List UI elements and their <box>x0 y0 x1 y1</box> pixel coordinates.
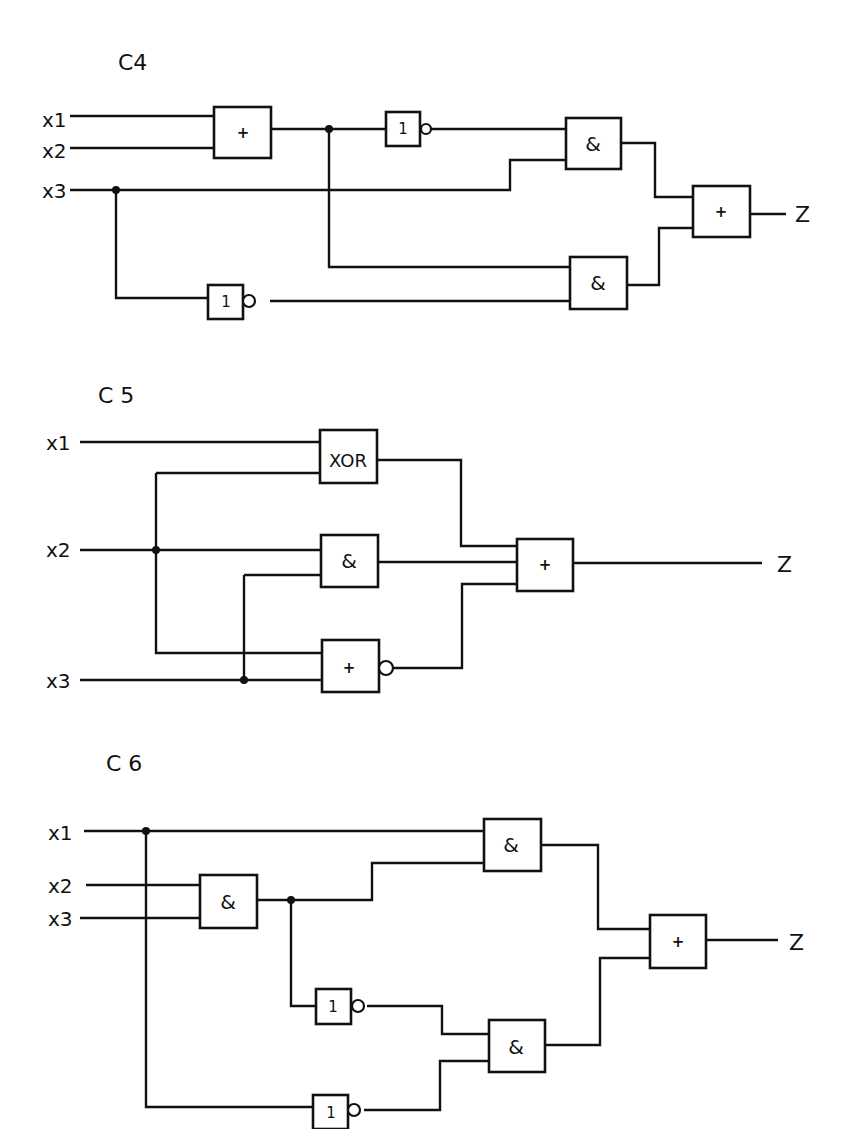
input-label-x1: x1 <box>48 821 73 845</box>
circuit-c4: C4 x1 x2 x3 + 1 & & 1 + Z <box>42 50 810 319</box>
output-label-z: Z <box>777 552 792 577</box>
not-gate-symbol: 1 <box>326 1104 336 1122</box>
not-gate-symbol: 1 <box>328 998 338 1016</box>
input-label-x3: x3 <box>42 179 67 203</box>
circuit-title-c5: C 5 <box>98 383 134 408</box>
input-label-x3: x3 <box>48 907 73 931</box>
inversion-bubble <box>421 124 431 134</box>
and-gate-symbol: & <box>503 833 519 857</box>
input-label-x3: x3 <box>46 669 71 693</box>
and-gate-symbol: & <box>590 271 606 295</box>
circuit-title-c6: C 6 <box>106 751 142 776</box>
or-gate-symbol: + <box>237 124 250 142</box>
and-gate-symbol: & <box>585 132 601 156</box>
output-label-z: Z <box>795 202 810 227</box>
nor-gate-symbol: + <box>343 659 356 677</box>
inversion-bubble <box>243 295 255 307</box>
circuit-diagrams: C4 x1 x2 x3 + 1 & & 1 + Z <box>0 0 841 1129</box>
or-gate-symbol: + <box>672 933 685 951</box>
inversion-bubble <box>379 661 393 675</box>
input-label-x2: x2 <box>48 874 73 898</box>
circuit-title-c4: C4 <box>118 50 147 75</box>
not-gate-symbol: 1 <box>398 120 408 138</box>
inversion-bubble <box>352 1000 364 1012</box>
and-gate-symbol: & <box>508 1035 524 1059</box>
and-gate-symbol: & <box>220 890 236 914</box>
input-label-x1: x1 <box>46 431 71 455</box>
circuit-c6: C 6 x1 x2 x3 & & 1 1 & + Z <box>48 751 804 1129</box>
input-label-x1: x1 <box>42 108 67 132</box>
circuit-c5: C 5 x1 x2 x3 XOR & + + Z <box>46 383 792 693</box>
not-gate-symbol: 1 <box>221 293 231 311</box>
or-gate-symbol: + <box>715 203 728 221</box>
xor-gate-symbol: XOR <box>329 450 367 471</box>
output-label-z: Z <box>789 930 804 955</box>
input-label-x2: x2 <box>42 139 67 163</box>
inversion-bubble <box>348 1104 360 1116</box>
and-gate-symbol: & <box>341 549 357 573</box>
input-label-x2: x2 <box>46 538 71 562</box>
or-gate-symbol: + <box>539 556 552 574</box>
